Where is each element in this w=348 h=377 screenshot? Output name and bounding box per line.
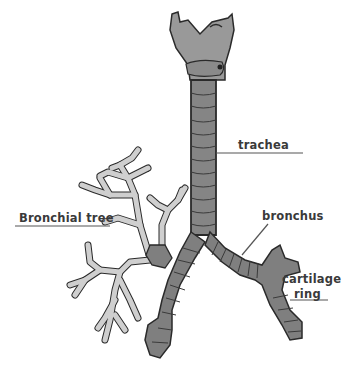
bronchus-leader-line bbox=[242, 224, 268, 255]
cartilage-label: cartilage bbox=[282, 272, 341, 286]
trachea-illustration bbox=[191, 80, 216, 235]
airway-illustration bbox=[0, 0, 348, 377]
ring-label: ring bbox=[294, 287, 321, 301]
bronchus-label: bronchus bbox=[262, 209, 324, 223]
right-bronchus-illustration bbox=[205, 232, 302, 340]
airway-diagram: trachea Bronchial tree bronchus cartilag… bbox=[0, 0, 348, 377]
trachea-label: trachea bbox=[238, 138, 289, 152]
left-bronchus-illustration bbox=[145, 232, 205, 358]
larynx-illustration bbox=[170, 12, 234, 80]
bronchial-tree-label: Bronchial tree bbox=[19, 211, 114, 225]
